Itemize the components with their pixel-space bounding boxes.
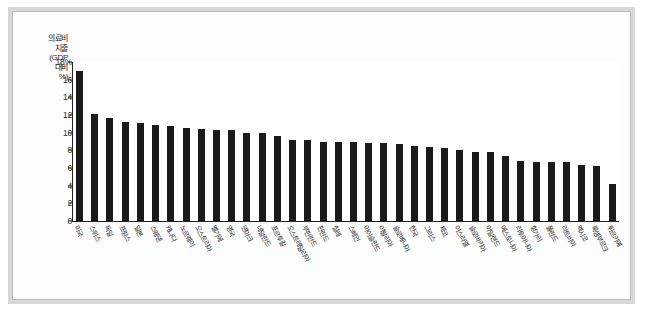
bar [259, 133, 266, 221]
bar [152, 125, 159, 221]
x-axis-tick-label: 미국 [72, 224, 84, 238]
x-axis-tick-label: 멕시코 [574, 224, 589, 243]
bar [426, 147, 433, 221]
y-axis-tick-mark [68, 132, 72, 133]
x-axis-tick-label: 독일 [102, 224, 114, 238]
figure-container: 의료비 지출 (GDP 대비 %) 18%1614121086420 미국스위스… [0, 0, 645, 314]
bar [578, 165, 585, 221]
bar [350, 142, 357, 221]
x-axis-tick-label: 한국 [407, 224, 419, 238]
bar [502, 156, 509, 221]
x-axis-tick-label: 튀르키예 [605, 224, 622, 248]
bar [106, 118, 113, 221]
bar [304, 140, 311, 221]
y-axis-tick-mark [68, 115, 72, 116]
x-axis-tick-label: 폴란드 [544, 224, 559, 243]
bar [456, 150, 463, 221]
y-axis-tick-mark [68, 97, 72, 98]
x-axis-tick-label: 일본 [133, 224, 145, 238]
x-axis-tick-label: 핀란드 [316, 224, 331, 243]
y-axis-tick-mark [68, 62, 72, 63]
bar [274, 136, 281, 221]
x-axis-tick-label: 체코 [437, 224, 449, 238]
x-axis-tick-label: 덴마크 [239, 224, 254, 243]
bar [396, 144, 403, 221]
y-axis-tick-mark [68, 150, 72, 151]
bar [243, 133, 250, 221]
bar-chart: 의료비 지출 (GDP 대비 %) 18%1614121086420 미국스위스… [0, 0, 645, 314]
y-axis-tick-mark [68, 79, 72, 80]
bar-series [73, 62, 619, 221]
x-axis-tick-label: 스웨덴 [148, 224, 163, 243]
y-axis-title-line-1: 의료비 [24, 34, 68, 44]
y-axis-tick-mark [68, 221, 72, 222]
bar [548, 162, 555, 221]
bar [228, 130, 235, 221]
x-axis-tick-label: 프랑스 [118, 224, 133, 243]
bar [533, 162, 540, 221]
bar [441, 148, 448, 221]
bar [365, 143, 372, 221]
bar [183, 128, 190, 221]
y-axis-title-line-2: 지출 [24, 44, 68, 54]
bar [76, 71, 83, 221]
x-axis-tick-label: 캐나다 [163, 224, 178, 243]
bar [335, 142, 342, 221]
y-axis-tick-mark [68, 203, 72, 204]
x-axis-tick-label: 그리스 [422, 224, 437, 243]
x-axis-tick-label: 영국 [224, 224, 236, 238]
x-axis-tick-label: 헝가리 [529, 224, 544, 243]
y-axis-tick-mark [68, 168, 72, 169]
bar [137, 123, 144, 221]
y-axis-tick-mark [68, 185, 72, 186]
bar [487, 152, 494, 221]
bar [609, 184, 616, 221]
bar [472, 152, 479, 221]
bar [380, 143, 387, 221]
bar [289, 140, 296, 221]
x-axis-labels: 미국스위스독일프랑스일본스웨덴캐나다노르웨이오스트리아벨기에영국덴마크네덜란드포… [72, 222, 618, 302]
y-axis: 18%1614121086420 [40, 62, 72, 221]
bar [320, 142, 327, 222]
bar [517, 161, 524, 221]
bar [213, 130, 220, 221]
x-axis-tick-label: 스페인 [346, 224, 361, 243]
bar [198, 129, 205, 221]
x-axis-tick-label: 스위스 [87, 224, 102, 243]
x-axis-tick-label: 칠레 [331, 224, 343, 238]
bar [167, 126, 174, 221]
bar [122, 122, 129, 221]
plot-area [72, 62, 619, 222]
bar [91, 114, 98, 221]
bar [593, 166, 600, 221]
bar [563, 162, 570, 221]
bar [411, 146, 418, 221]
x-axis-tick-label: 벨기에 [209, 224, 224, 243]
